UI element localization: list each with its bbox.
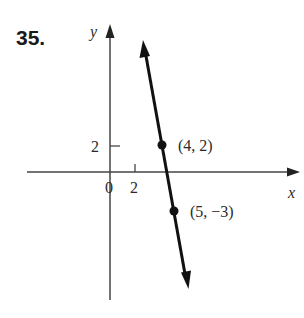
- graphed-line: [140, 40, 192, 289]
- x-axis: [27, 168, 300, 177]
- coordinate-plane: 35. y x 2 0 2 (4, 2) (5, −3): [0, 0, 304, 318]
- point-label-4-2: (4, 2): [178, 137, 213, 155]
- y-axis-arrow-icon: [106, 24, 115, 38]
- x-axis-label: x: [287, 184, 295, 201]
- y-axis: [106, 24, 115, 300]
- x-tick-label-2: 2: [130, 179, 138, 196]
- y-tick-label-2: 2: [91, 138, 99, 155]
- point-4-2: [158, 141, 167, 150]
- point-5-neg3: [170, 207, 179, 216]
- y-axis-label: y: [88, 23, 98, 41]
- line-arrow-up-icon: [140, 40, 151, 58]
- x-axis-arrow-icon: [287, 168, 300, 177]
- point-label-5-neg3: (5, −3): [190, 203, 234, 221]
- line-arrow-down-icon: [181, 271, 191, 290]
- problem-number: 35.: [16, 26, 45, 49]
- origin-label: 0: [105, 179, 113, 196]
